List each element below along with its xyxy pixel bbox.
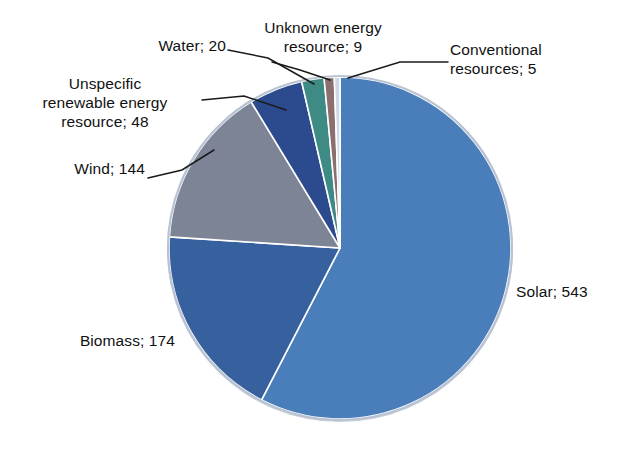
slice-label-unspecific-renewable-energy-resource: Unspecific renewable energy resource; 48 bbox=[10, 74, 200, 131]
leader-line-conventional bbox=[348, 62, 448, 78]
slice-label-conventional-resources: Conventional resources; 5 bbox=[450, 40, 620, 78]
pie-chart: Solar; 543Biomass; 174Wind; 144Unspecifi… bbox=[0, 0, 632, 450]
pie-slices: Solar; 543Biomass; 174Wind; 144Unspecifi… bbox=[169, 77, 511, 419]
slice-label-wind: Wind; 144 bbox=[20, 159, 145, 178]
slice-label-solar: Solar; 543 bbox=[516, 282, 626, 301]
slice-label-unknown-energy-resource: Unknown energy resource; 9 bbox=[248, 18, 398, 56]
slice-label-biomass: Biomass; 174 bbox=[30, 331, 175, 350]
slice-label-water: Water; 20 bbox=[96, 36, 226, 55]
